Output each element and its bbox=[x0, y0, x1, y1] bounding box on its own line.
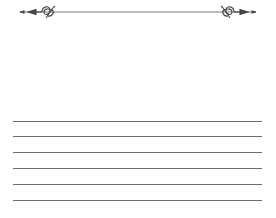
ruled-lines bbox=[13, 0, 262, 218]
ruled-line bbox=[13, 200, 262, 201]
ruled-line bbox=[13, 136, 262, 137]
ruled-line bbox=[13, 184, 262, 185]
ruled-line bbox=[13, 168, 262, 169]
ruled-line bbox=[13, 152, 262, 153]
ruled-line bbox=[13, 121, 262, 122]
